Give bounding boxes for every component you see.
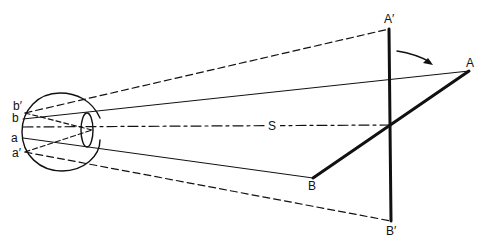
label-B-prime: B′ bbox=[386, 224, 397, 238]
rotation-arrow bbox=[397, 51, 430, 62]
label-A: A bbox=[466, 56, 474, 70]
ray-a-to-B bbox=[23, 138, 313, 178]
label-a-prime: a′ bbox=[12, 146, 22, 160]
label-S: S bbox=[268, 119, 276, 133]
perspective-eye-diagram: A′ A S B B′ b′ b a a′ bbox=[0, 0, 493, 248]
axis-S bbox=[23, 125, 390, 127]
ray-a-prime-to-A-prime bbox=[25, 29, 389, 113]
label-B: B bbox=[308, 179, 316, 193]
label-a: a bbox=[11, 131, 18, 145]
label-b: b bbox=[12, 111, 19, 125]
ray-b-to-A bbox=[23, 71, 469, 119]
label-A-prime: A′ bbox=[384, 12, 395, 26]
